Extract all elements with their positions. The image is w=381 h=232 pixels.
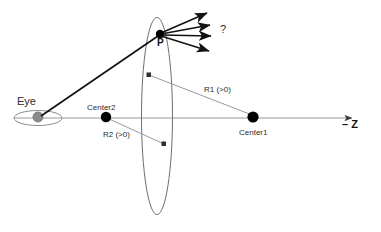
diagram-canvas: [0, 0, 381, 232]
eye-label: Eye: [17, 96, 36, 107]
center1-label: Center1: [239, 129, 267, 137]
axis-label: – Z: [342, 119, 358, 130]
center2-dot: [101, 112, 111, 122]
refracted-ray-3: [161, 35, 211, 36]
question-label: ?: [220, 24, 226, 35]
eye-pupil: [33, 112, 43, 122]
center2-label: Center2: [87, 104, 115, 112]
point-p-label: P: [157, 38, 164, 48]
optics-diagram: Eye P ? Center2 Center1 R1 (>0) R2 (>0) …: [0, 0, 381, 232]
radius1-line: [149, 75, 252, 115]
center1-dot: [247, 111, 258, 122]
radius1-label: R1 (>0): [204, 86, 231, 94]
radius2-endpoint-marker: [162, 142, 167, 147]
radius2-label: R2 (>0): [103, 131, 130, 139]
radius1-endpoint-marker: [147, 73, 152, 78]
